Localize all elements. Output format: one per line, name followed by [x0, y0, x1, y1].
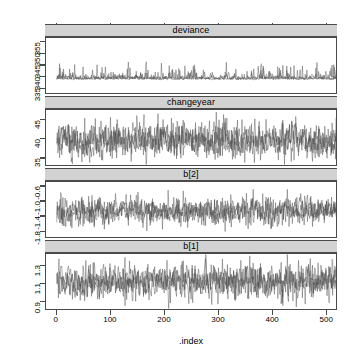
y-tick-label: 35 — [34, 158, 42, 167]
x-tick-label: 500 — [319, 316, 332, 324]
x-tick-label: 0 — [54, 316, 58, 324]
trace-canvas — [46, 182, 336, 237]
y-tick-label: 45 — [34, 120, 42, 129]
y-tick-label: -1.4 — [34, 216, 42, 230]
panel-strip-label: changeyear — [167, 98, 215, 107]
y-tick-label: 40 — [34, 139, 42, 148]
y-tick-label: 340 — [34, 77, 42, 90]
trace-line-chain-3 — [57, 189, 336, 231]
y-axis-changeyear: 354045 — [0, 109, 45, 166]
panel-strip-deviance: deviance — [45, 24, 337, 37]
panel-strip-label: deviance — [173, 26, 210, 35]
x-tick-label: 100 — [103, 316, 116, 324]
panel-strip-b[1]: b[1] — [45, 240, 337, 253]
x-tick-label: 300 — [211, 316, 224, 324]
panel-strip-label: b[2] — [183, 170, 198, 179]
panel-changeyear — [45, 109, 337, 166]
panel-strip-b[2]: b[2] — [45, 168, 337, 181]
trace-canvas — [46, 254, 336, 309]
y-tick-label: 1.1 — [34, 283, 42, 294]
panel-b[1] — [45, 253, 337, 310]
y-tick-label: 0.9 — [34, 302, 42, 313]
trace-plot-figure: deviance335340345350355changeyear354045b… — [0, 0, 353, 360]
panel-strip-changeyear: changeyear — [45, 96, 337, 109]
x-axis-bottom: 0100200300400500 — [45, 310, 337, 324]
y-tick-label: 345 — [34, 65, 42, 78]
y-axis-b[2]: -1.8-1.4-1.0-0.6 — [0, 181, 45, 238]
y-tick-label: -1.8 — [34, 231, 42, 245]
y-tick-label: 1.3 — [34, 265, 42, 276]
y-axis-deviance: 335340345350355 — [0, 37, 45, 94]
x-tick-label: 400 — [265, 316, 278, 324]
x-tick-label: 200 — [157, 316, 170, 324]
y-tick-label: -1.0 — [34, 201, 42, 215]
y-tick-label: -0.6 — [34, 186, 42, 200]
trace-line-chain-3 — [57, 112, 336, 165]
x-axis-label: .index — [45, 337, 337, 346]
y-axis-b[1]: 0.91.11.3 — [0, 253, 45, 310]
panel-b[2] — [45, 181, 337, 238]
panel-strip-label: b[1] — [183, 242, 198, 251]
trace-canvas — [46, 38, 336, 93]
trace-canvas — [46, 110, 336, 165]
y-tick-label: 355 — [34, 42, 42, 55]
panel-deviance — [45, 37, 337, 94]
